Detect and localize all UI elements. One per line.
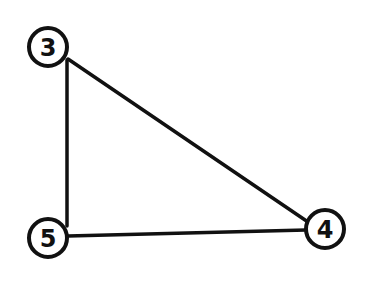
edges-group xyxy=(67,59,308,236)
nodes-group: 354 xyxy=(29,28,344,257)
node-5: 5 xyxy=(29,219,67,257)
node-label: 3 xyxy=(40,34,57,62)
node-label: 4 xyxy=(317,216,334,244)
node-3: 3 xyxy=(29,28,67,66)
edge-3-4 xyxy=(68,59,308,222)
edge-5-4 xyxy=(68,230,306,236)
node-4: 4 xyxy=(306,210,344,248)
node-label: 5 xyxy=(40,225,57,253)
graph-diagram: 354 xyxy=(0,0,374,289)
